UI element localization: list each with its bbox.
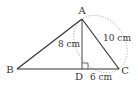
right-angle-marker xyxy=(82,63,88,69)
triangle-diagram: A B C D 8 cm 10 cm 6 cm xyxy=(0,0,138,89)
label-b: B xyxy=(6,64,13,75)
measure-dc: 6 cm xyxy=(90,72,113,82)
label-c: C xyxy=(121,65,129,76)
label-d: D xyxy=(75,71,83,82)
label-a: A xyxy=(77,5,86,16)
measure-ac: 10 cm xyxy=(103,33,131,43)
side-ac xyxy=(82,19,119,69)
measure-ad: 8 cm xyxy=(58,39,81,49)
